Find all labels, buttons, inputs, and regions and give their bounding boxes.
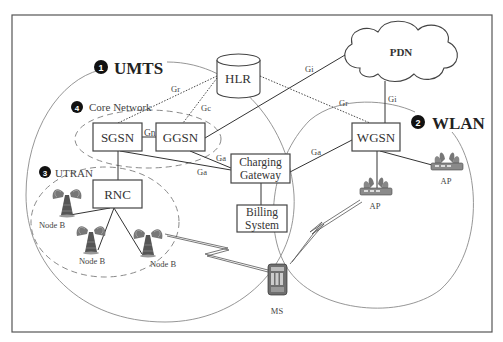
svg-text:1: 1 — [98, 63, 103, 73]
wgsn-node: WGSN — [352, 123, 400, 151]
interface-label-gi-ggsn: Gi — [305, 64, 314, 74]
svg-text:Node B: Node B — [39, 220, 66, 230]
svg-text:GGSN: GGSN — [163, 130, 199, 145]
pdn-label: PDN — [390, 46, 413, 58]
billing-system-node: Billing System — [237, 205, 287, 232]
svg-text:AP: AP — [441, 176, 452, 186]
svg-text:System: System — [245, 219, 279, 232]
utran-title: 3 UTRAN — [39, 166, 93, 179]
svg-text:Billing: Billing — [246, 206, 278, 219]
svg-text:Core Network: Core Network — [89, 101, 152, 113]
hlr-label: HLR — [225, 71, 251, 86]
svg-text:SGSN: SGSN — [101, 130, 135, 145]
rnc-node: RNC — [93, 180, 142, 208]
svg-text:Node B: Node B — [79, 256, 106, 266]
interface-label-gi-wgsn: Gi — [388, 94, 397, 104]
svg-text:3: 3 — [43, 169, 48, 178]
svg-text:MS: MS — [271, 306, 284, 316]
svg-text:WGSN: WGSN — [357, 130, 396, 145]
svg-text:AP: AP — [370, 201, 381, 211]
interface-label-ga-ggsn: Ga — [216, 153, 226, 163]
svg-text:RNC: RNC — [104, 187, 131, 202]
svg-text:UMTS: UMTS — [114, 59, 163, 78]
svg-text:Gateway: Gateway — [240, 169, 281, 182]
svg-text:2: 2 — [415, 118, 420, 128]
umts-wlan-architecture-diagram: SGSN GGSN WGSN RNC Charging Gateway Bill… — [0, 0, 503, 342]
svg-text:Node B: Node B — [150, 259, 177, 269]
svg-text:WLAN: WLAN — [432, 114, 486, 133]
interface-label-ga-wgsn: Ga — [311, 147, 321, 157]
mobile-phone-icon — [268, 264, 287, 295]
svg-text:Charging: Charging — [239, 156, 282, 169]
svg-text:4: 4 — [75, 104, 80, 113]
interface-label-gr-sgsn: Gr — [171, 84, 180, 94]
interface-label-gc: Gc — [201, 103, 211, 113]
charging-gateway-node: Charging Gateway — [231, 154, 290, 183]
ggsn-node: GGSN — [156, 123, 205, 151]
svg-text:UTRAN: UTRAN — [55, 167, 93, 179]
interface-label-ga-sgsn: Ga — [197, 167, 207, 177]
sgsn-node: SGSN — [93, 123, 142, 151]
interface-label-gn: Gn — [144, 128, 156, 138]
interface-label-gr-wgsn: Gr — [339, 98, 348, 108]
